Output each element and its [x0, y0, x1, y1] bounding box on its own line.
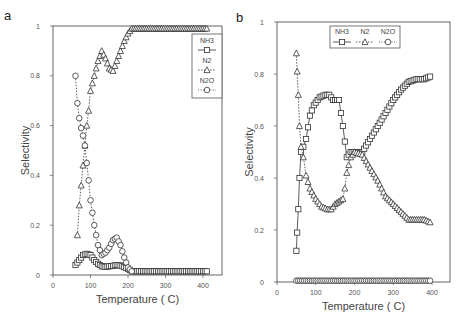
nh3-marker [336, 97, 341, 102]
x-tick-label: 300 [160, 282, 172, 289]
y-tick-label: 0.2 [254, 227, 264, 234]
y-tick-label: 0.8 [254, 71, 264, 78]
n2-marker [76, 202, 82, 208]
nh3-marker [303, 136, 308, 141]
series-nh3 [73, 251, 209, 274]
x-tick-label: 0 [51, 282, 55, 289]
legend-nh3-marker [339, 39, 344, 44]
nh3-marker [305, 125, 310, 130]
n2-marker [293, 50, 299, 56]
nh3-marker [340, 123, 345, 128]
legend: NH3N2N2O [192, 34, 222, 98]
y-tick-label: 0.4 [30, 172, 40, 179]
legend-label-n2o: N2O [200, 77, 215, 84]
chart-panel-a: a00.20.40.60.810100200300400SelectivityT… [4, 8, 222, 305]
n2-marker [88, 88, 94, 94]
nh3-marker [338, 110, 343, 115]
nh3-marker [297, 175, 302, 180]
nh3-marker [296, 207, 301, 212]
x-axis-label: Temperature ( C) [96, 293, 179, 305]
legend-label-n2: N2 [203, 57, 212, 64]
series-n2o [294, 278, 433, 284]
y-axis-label: Selectivity [19, 125, 31, 175]
n2o-marker [80, 133, 86, 139]
nh3-marker [342, 139, 347, 144]
nh3-marker [294, 248, 299, 253]
x-tick-label: 400 [197, 282, 209, 289]
n2-marker [78, 182, 84, 188]
y-axis-label: Selectivity [243, 127, 255, 177]
x-tick-label: 200 [122, 282, 134, 289]
n2-marker [346, 162, 352, 168]
n2-marker [295, 92, 301, 98]
x-tick-label: 400 [426, 289, 438, 296]
series-n2 [293, 50, 433, 225]
n2o-marker [427, 278, 433, 284]
chart-panel-b: b00.20.40.60.810100200300400SelectivityT… [236, 10, 450, 312]
n2o-marker [73, 73, 79, 79]
nh3-marker [295, 230, 300, 235]
nh3-marker [427, 74, 432, 79]
n2o-marker [75, 100, 81, 106]
y-tick-label: 0.2 [30, 222, 40, 229]
n2-marker [303, 172, 309, 178]
panel-label: b [236, 10, 243, 25]
n2o-marker [86, 178, 92, 184]
nh3-marker [307, 113, 312, 118]
legend-label-n2o: N2O [381, 28, 396, 35]
nh3-marker [309, 108, 314, 113]
n2o-marker [88, 198, 94, 204]
n2o-marker [118, 242, 124, 248]
x-tick-label: 300 [387, 289, 399, 296]
series-n2 [74, 25, 209, 237]
y-tick-label: 0.6 [30, 122, 40, 129]
n2o-marker [84, 160, 90, 166]
n2o-marker [82, 143, 88, 149]
y-tick-label: 0 [36, 272, 40, 279]
y-tick-label: 1 [260, 19, 264, 26]
legend-label-n2: N2 [361, 28, 370, 35]
y-tick-label: 0.4 [254, 175, 264, 182]
n2o-marker [78, 125, 84, 131]
x-tick-label: 200 [349, 289, 361, 296]
n2o-marker [129, 268, 135, 274]
nh3-marker [204, 269, 209, 274]
legend-label-nh3: NH3 [200, 37, 214, 44]
n2-marker [342, 185, 348, 191]
x-tick-label: 100 [85, 282, 97, 289]
n2-marker [86, 107, 92, 113]
series-n2o [73, 73, 135, 274]
n2o-marker [93, 232, 99, 238]
n2-marker [305, 179, 311, 185]
y-tick-label: 0.6 [254, 123, 264, 130]
y-tick-label: 1 [36, 23, 40, 30]
legend-n2o-marker [385, 39, 391, 45]
n2-marker [296, 123, 302, 129]
n2o-marker [91, 222, 97, 228]
n2o-marker [90, 210, 96, 216]
n2-marker [89, 80, 95, 86]
n2o-marker [76, 115, 82, 121]
x-tick-label: 0 [275, 289, 279, 296]
nh3-marker [298, 149, 303, 154]
x-tick-label: 100 [310, 289, 322, 296]
n2-marker [93, 65, 99, 71]
x-axis-label: Temperature ( C) [322, 300, 405, 312]
n2-marker [91, 73, 97, 79]
selectivity-figure: a00.20.40.60.810100200300400SelectivityT… [0, 0, 467, 316]
legend-label-nh3: NH3 [335, 28, 349, 35]
n2-marker [344, 170, 350, 176]
series-line [76, 76, 132, 271]
n2-marker [84, 122, 90, 128]
n2-marker [74, 232, 80, 238]
n2-marker [294, 68, 300, 74]
legend: NH3N2N2O [330, 26, 400, 48]
panel-label: a [4, 8, 12, 23]
y-tick-label: 0.8 [30, 72, 40, 79]
n2o-marker [120, 249, 126, 255]
legend-nh3-marker [204, 47, 209, 52]
y-tick-label: 0 [260, 279, 264, 286]
legend-n2o-marker [204, 87, 210, 93]
